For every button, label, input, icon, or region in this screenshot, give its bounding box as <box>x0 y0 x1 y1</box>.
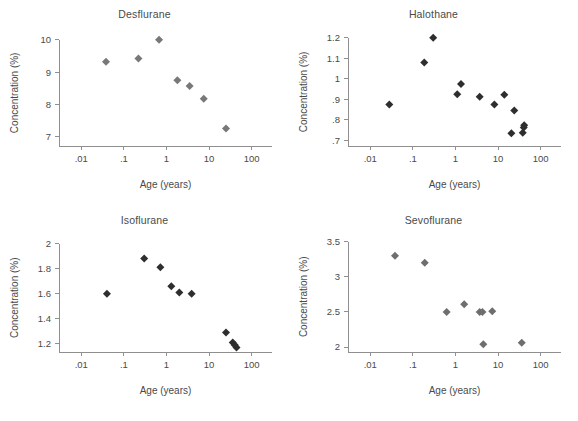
y-tick-label: 10 <box>40 34 51 45</box>
x-axis-title: Age (years) <box>140 179 192 190</box>
y-tick-label: .9 <box>332 94 340 105</box>
x-tick-label: 1 <box>453 153 458 164</box>
y-tick-label: 1.6 <box>38 288 51 299</box>
data-point-marker <box>173 76 181 84</box>
scatter-plot-desflurane: 78910.01.1110100Age (years)Concentration… <box>0 0 289 205</box>
figure-root: Desflurane 78910.01.1110100Age (years)Co… <box>0 0 578 421</box>
data-point-marker <box>186 82 194 90</box>
x-axis-title: Age (years) <box>429 179 481 190</box>
y-tick-label: 1.2 <box>327 32 340 43</box>
x-tick-label: 1 <box>453 359 458 370</box>
scatter-plot-halothane: .7.8.911.11.2.01.1110100Age (years)Conce… <box>289 0 578 205</box>
x-tick-label: 10 <box>493 153 504 164</box>
data-point-marker <box>421 259 429 267</box>
data-point-marker <box>222 329 230 337</box>
y-axis-title: Concentration (%) <box>9 53 20 134</box>
y-axis-title: Concentration (%) <box>298 52 309 133</box>
x-tick-label: 10 <box>204 153 215 164</box>
y-tick-label: 1.2 <box>38 338 51 349</box>
y-tick-label: 2 <box>335 341 340 352</box>
data-point-marker <box>222 125 230 133</box>
y-tick-label: .8 <box>332 114 340 125</box>
y-tick-label: 8 <box>46 99 51 110</box>
data-point-marker <box>518 339 526 347</box>
data-point-marker <box>443 308 451 316</box>
data-point-marker <box>188 290 196 298</box>
data-point-marker <box>140 255 148 263</box>
y-tick-label: 3 <box>335 271 340 282</box>
data-point-marker <box>167 282 175 290</box>
data-point-marker <box>420 58 428 66</box>
x-tick-label: .1 <box>120 153 128 164</box>
x-tick-label: .01 <box>75 359 88 370</box>
panel-sevoflurane: Sevoflurane 22.533.5.01.1110100Age (year… <box>289 206 578 411</box>
data-point-marker <box>507 129 515 137</box>
y-tick-label: 3.5 <box>327 236 340 247</box>
x-tick-label: .01 <box>364 153 377 164</box>
x-tick-label: .01 <box>75 153 88 164</box>
y-tick-label: 1.1 <box>327 53 340 64</box>
panel-halothane: Halothane .7.8.911.11.2.01.1110100Age (y… <box>289 0 578 205</box>
y-tick-label: 2 <box>46 238 51 249</box>
scatter-plot-isoflurane: 1.21.41.61.82.01.1110100Age (years)Conce… <box>0 206 289 411</box>
y-tick-label: 1.8 <box>38 263 51 274</box>
caption-cutoff-strip <box>0 412 578 421</box>
x-tick-label: 100 <box>533 359 549 370</box>
panel-desflurane: Desflurane 78910.01.1110100Age (years)Co… <box>0 0 289 205</box>
x-tick-label: 10 <box>204 359 215 370</box>
data-point-marker <box>500 91 508 99</box>
data-point-marker <box>453 90 461 98</box>
data-point-marker <box>385 100 393 108</box>
x-tick-label: .1 <box>409 153 417 164</box>
data-point-marker <box>200 95 208 103</box>
x-tick-label: .01 <box>364 359 377 370</box>
x-tick-label: 100 <box>533 153 549 164</box>
x-axis-title: Age (years) <box>429 385 481 396</box>
y-tick-label: .7 <box>332 135 340 146</box>
data-point-marker <box>103 290 111 298</box>
x-axis-title: Age (years) <box>140 385 192 396</box>
x-tick-label: 1 <box>164 359 169 370</box>
x-tick-label: 100 <box>244 153 260 164</box>
x-tick-label: 100 <box>244 359 260 370</box>
y-tick-label: 1 <box>335 73 340 84</box>
y-axis-title: Concentration (%) <box>9 257 20 338</box>
x-tick-label: 1 <box>164 153 169 164</box>
data-point-marker <box>488 307 496 315</box>
data-point-marker <box>134 55 142 63</box>
x-tick-label: .1 <box>409 359 417 370</box>
y-tick-label: 9 <box>46 67 51 78</box>
data-point-marker <box>175 288 183 296</box>
y-tick-label: 1.4 <box>38 313 51 324</box>
data-point-marker <box>460 300 468 308</box>
data-point-marker <box>102 58 110 66</box>
scatter-plot-sevoflurane: 22.533.5.01.1110100Age (years)Concentrat… <box>289 206 578 411</box>
data-point-marker <box>490 100 498 108</box>
data-point-marker <box>457 80 465 88</box>
y-tick-label: 2.5 <box>327 306 340 317</box>
data-point-marker <box>479 340 487 348</box>
data-point-marker <box>155 36 163 44</box>
data-point-marker <box>429 34 437 42</box>
data-point-marker <box>476 93 484 101</box>
data-point-marker <box>391 252 399 260</box>
x-tick-label: 10 <box>493 359 504 370</box>
x-tick-label: .1 <box>120 359 128 370</box>
panel-isoflurane: Isoflurane 1.21.41.61.82.01.1110100Age (… <box>0 206 289 411</box>
y-tick-label: 7 <box>46 131 51 142</box>
data-point-marker <box>156 263 164 271</box>
data-point-marker <box>510 107 518 115</box>
y-axis-title: Concentration (%) <box>298 257 309 338</box>
